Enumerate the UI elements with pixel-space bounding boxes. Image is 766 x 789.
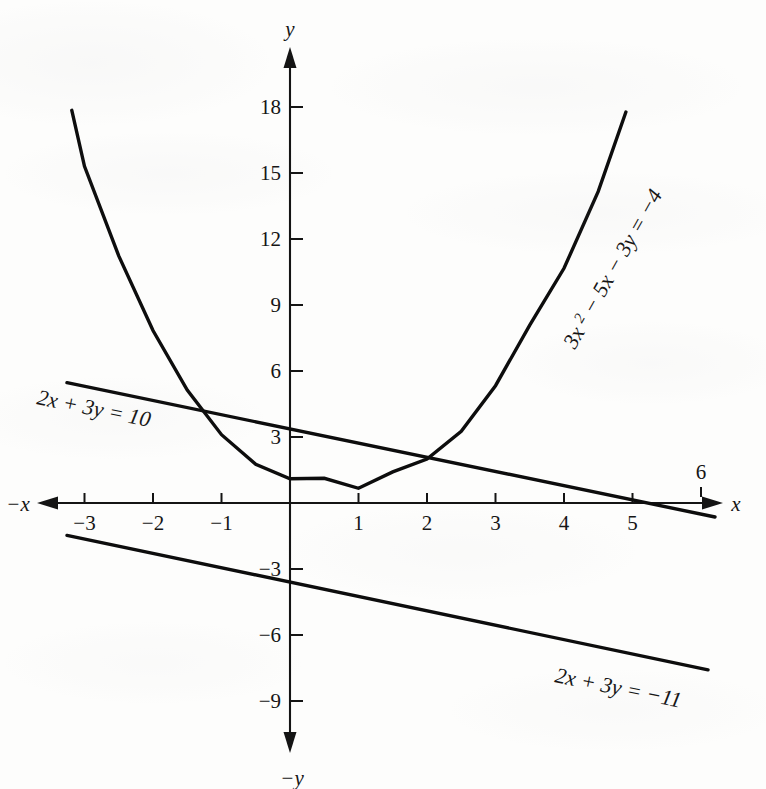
label-parabola-base: 3x bbox=[557, 322, 590, 353]
y-tick-label-group: 18 15 12 9 6 3 −3 −6 −9 bbox=[259, 95, 281, 713]
y-tick-group bbox=[290, 107, 303, 701]
label-parabola-exponent: 2 bbox=[571, 310, 589, 325]
y-axis-positive-label: y bbox=[283, 17, 295, 41]
parabola-curve-3x2-5x-3y bbox=[72, 110, 626, 488]
coordinate-plane: −3 −2 −1 1 2 3 4 5 6 18 15 12 9 bbox=[0, 0, 766, 789]
x-axis-negative-label: −x bbox=[6, 492, 30, 516]
line-2x-plus-3y-equals-10 bbox=[67, 383, 715, 517]
x-tick-label-3: 3 bbox=[490, 511, 501, 535]
label-line-lower: 2x + 3y = −11 bbox=[553, 662, 684, 712]
x-tick-label--2: −2 bbox=[142, 511, 164, 535]
x-tick-label--1: −1 bbox=[210, 511, 232, 535]
x-tick-label-group: −3 −2 −1 1 2 3 4 5 6 bbox=[73, 460, 706, 535]
axis-group bbox=[37, 47, 723, 753]
x-tick-label-6: 6 bbox=[696, 460, 707, 484]
x-tick-label-2: 2 bbox=[422, 511, 433, 535]
graph-figure: −3 −2 −1 1 2 3 4 5 6 18 15 12 9 bbox=[0, 0, 766, 789]
label-parabola: 3x 2 − 5x − 3y = −4 bbox=[551, 181, 667, 353]
x-tick-label-5: 5 bbox=[627, 511, 638, 535]
x-tick-label-1: 1 bbox=[353, 511, 364, 535]
y-tick-label-15: 15 bbox=[260, 161, 281, 185]
label-line-upper-group: 2x + 3y = 10 bbox=[35, 384, 153, 431]
x-tick-label-4: 4 bbox=[559, 511, 570, 535]
line-2x-plus-3y-equals-minus-11 bbox=[67, 535, 708, 669]
label-line-upper: 2x + 3y = 10 bbox=[35, 384, 153, 431]
y-tick-label-3: 3 bbox=[271, 425, 282, 449]
x-tick-label--3: −3 bbox=[73, 511, 95, 535]
y-tick-label-12: 12 bbox=[260, 227, 281, 251]
y-axis-arrow-up bbox=[284, 47, 297, 68]
label-line-lower-group: 2x + 3y = −11 bbox=[553, 662, 684, 712]
y-tick-label--9: −9 bbox=[259, 689, 281, 713]
x-axis-positive-label: x bbox=[730, 492, 741, 516]
y-tick-label--6: −6 bbox=[259, 623, 281, 647]
y-tick-label-6: 6 bbox=[271, 359, 282, 383]
x-axis-arrow-left bbox=[37, 497, 58, 510]
y-axis-negative-label: −y bbox=[280, 766, 304, 789]
x-axis-arrow-right bbox=[702, 497, 723, 510]
y-axis-arrow-down bbox=[284, 732, 297, 753]
y-tick-label-18: 18 bbox=[260, 95, 281, 119]
label-parabola-group: 3x 2 − 5x − 3y = −4 bbox=[551, 181, 667, 353]
y-tick-label-9: 9 bbox=[271, 293, 282, 317]
